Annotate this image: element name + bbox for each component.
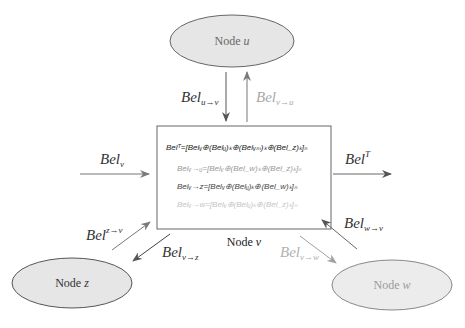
label-bel-v-to-w: Belv→w [280, 244, 319, 262]
node-z: Node z [12, 258, 132, 308]
formula-bel-v-to-w: Belᵥ→w=[Belᵥ⊕(Belᵤ)ₖ⊕(Bel_z)ₖ]ₙ [177, 200, 298, 209]
label-bel-v-to-z: Belv→z [162, 244, 199, 262]
node-w-label-var: w [402, 278, 410, 292]
node-v-box [157, 126, 331, 229]
label-bel-v-to-u: Belv→u [256, 89, 294, 107]
node-v: Node v [227, 235, 262, 249]
formula-bel-v-to-u: Belᵥ→ᵤ=[Belᵥ⊕(Bel_w)ₖ⊕(Bel_z)ₖ]ₙ [177, 164, 302, 173]
svg-text:Node z: Node z [55, 276, 89, 290]
label-bel-u-to-v: Belu→v [181, 89, 219, 107]
label-bel-v: Belv [100, 151, 124, 169]
node-u: Node u [170, 15, 294, 67]
node-u-label-prefix: Node [215, 34, 244, 48]
label-bel-w-to-v: Belw→v [344, 215, 383, 233]
belief-propagation-diagram: Node u Belu→v Belv→u Node v Belᵀ=[Belᵥ⊕(… [0, 0, 465, 328]
label-bel-z-to-v: Belz→v [86, 225, 123, 243]
node-w: Node w [332, 260, 452, 310]
formula-bel-v-to-z: Belᵥ→z=[Belᵥ⊕(Belᵤ)ₖ⊕(Bel_w)ₖ]ₙ [177, 182, 298, 191]
label-bel-t: BelT [345, 149, 371, 167]
formula-bel-total: Belᵀ=[Belᵥ⊕(Belᵤ)ₖ⊕(Belᵥₘ)ₖ⊕(Bel_z)ₖ]ₙ [166, 143, 308, 152]
node-v-label-var: v [256, 235, 262, 249]
node-z-label-prefix: Node [55, 276, 84, 290]
svg-text:Node u: Node u [215, 34, 250, 48]
node-z-label-var: z [83, 276, 89, 290]
node-v-label-prefix: Node [227, 235, 256, 249]
node-u-label-var: u [244, 34, 250, 48]
node-w-label-prefix: Node [373, 278, 402, 292]
svg-text:Node w: Node w [373, 278, 410, 292]
